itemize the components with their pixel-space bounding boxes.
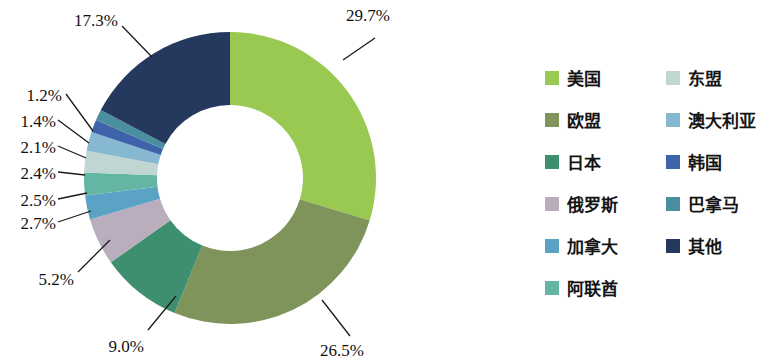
legend-item[interactable]: 日本: [545, 153, 601, 173]
legend-item-label: 澳大利亚: [688, 111, 756, 131]
pct-label-uae: 2.5%: [21, 191, 56, 210]
legend-right-swatch: [666, 155, 680, 169]
legend-item[interactable]: 韩国: [666, 153, 722, 173]
leader-line-2-1: [58, 146, 86, 158]
legend-right-swatch: [666, 239, 680, 253]
legend-item-label: 阿联酋: [567, 279, 618, 299]
legend-item[interactable]: 欧盟: [545, 111, 601, 131]
leader-line-1-2: [66, 94, 93, 131]
pct-label-panama: 1.2%: [27, 86, 62, 105]
legend-right-swatch: [666, 113, 680, 127]
leader-line-5-2: [78, 240, 110, 272]
leader-line-2-4: [58, 172, 85, 175]
donut-chart-figure: 29.7% 26.5% 9.0% 5.2% 2.7% 2.5% 2.4% 2.1…: [0, 0, 784, 362]
legend-item-label: 美国: [567, 69, 601, 89]
pct-label-us: 29.7%: [346, 6, 390, 25]
leader-line-26-5: [322, 300, 350, 336]
pct-label-russia: 5.2%: [39, 270, 74, 289]
legend-item[interactable]: 阿联酋: [545, 279, 618, 299]
pct-label-australia: 2.1%: [21, 138, 56, 157]
legend-left-swatch: [545, 239, 559, 253]
legend-right-swatch: [666, 197, 680, 211]
legend-item[interactable]: 加拿大: [545, 237, 618, 257]
legend-item-label: 日本: [567, 153, 601, 173]
legend-item[interactable]: 美国: [545, 69, 601, 89]
leader-line-1-4: [58, 120, 89, 143]
legend-left-swatch: [545, 71, 559, 85]
legend-item-label: 欧盟: [567, 111, 601, 131]
pct-label-asean: 2.4%: [21, 164, 56, 183]
legend-column-left: 美国欧盟日本俄罗斯加拿大阿联酋: [545, 69, 618, 299]
legend-item[interactable]: 东盟: [666, 69, 722, 89]
legend-item-label: 其他: [688, 237, 722, 257]
legend-item-label: 东盟: [688, 69, 722, 89]
legend-left-swatch: [545, 113, 559, 127]
donut-slice[interactable]: [230, 32, 376, 220]
pct-label-canada: 2.7%: [21, 214, 56, 233]
legend-left-swatch: [545, 281, 559, 295]
legend-item[interactable]: 俄罗斯: [545, 195, 618, 215]
pct-label-other: 17.3%: [74, 11, 118, 30]
leader-line-17-3: [122, 26, 152, 57]
donut-slice[interactable]: [175, 199, 370, 324]
leader-line-2-7: [58, 211, 91, 222]
legend-item[interactable]: 澳大利亚: [666, 111, 756, 131]
legend-item-label: 加拿大: [566, 237, 618, 257]
leader-line-29-7: [343, 38, 375, 60]
legend-item-label: 俄罗斯: [566, 195, 618, 215]
legend-column-right: 东盟澳大利亚韩国巴拿马其他: [666, 69, 756, 257]
legend-item[interactable]: 巴拿马: [666, 195, 739, 215]
legend-left-swatch: [545, 155, 559, 169]
leader-line-2-5: [58, 193, 87, 199]
pct-label-japan: 9.0%: [109, 337, 144, 356]
chart-svg: 29.7% 26.5% 9.0% 5.2% 2.7% 2.5% 2.4% 2.1…: [0, 0, 784, 362]
legend-item[interactable]: 其他: [666, 237, 722, 257]
legend-item-label: 巴拿马: [688, 195, 739, 215]
legend-right-swatch: [666, 71, 680, 85]
pct-label-eu: 26.5%: [320, 341, 364, 360]
legend-item-label: 韩国: [688, 153, 722, 173]
pct-label-korea: 1.4%: [21, 112, 56, 131]
legend-left-swatch: [545, 197, 559, 211]
donut-slice-group: [84, 32, 376, 324]
